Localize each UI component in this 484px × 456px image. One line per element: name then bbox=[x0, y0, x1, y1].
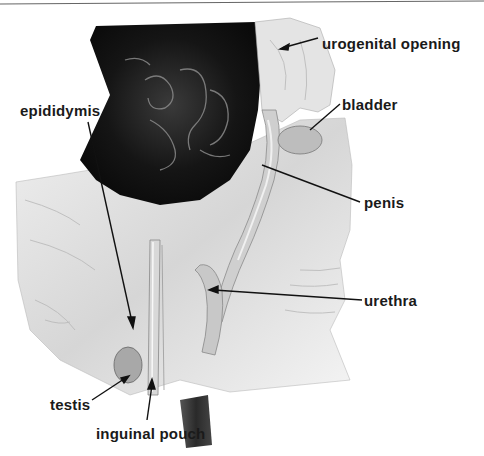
bladder-organ bbox=[278, 126, 322, 154]
label-bladder: bladder bbox=[342, 96, 398, 113]
dissection-photo bbox=[0, 0, 484, 456]
label-epididymis: epididymis bbox=[20, 102, 100, 119]
label-urogenital-opening: urogenital opening bbox=[322, 35, 461, 52]
label-urethra: urethra bbox=[364, 292, 417, 309]
cloacal-tissue bbox=[255, 18, 335, 122]
label-testis: testis bbox=[50, 396, 90, 413]
label-inguinal-pouch: inguinal pouch bbox=[96, 425, 205, 442]
spermatic-cord bbox=[148, 240, 160, 395]
label-penis: penis bbox=[364, 194, 404, 211]
